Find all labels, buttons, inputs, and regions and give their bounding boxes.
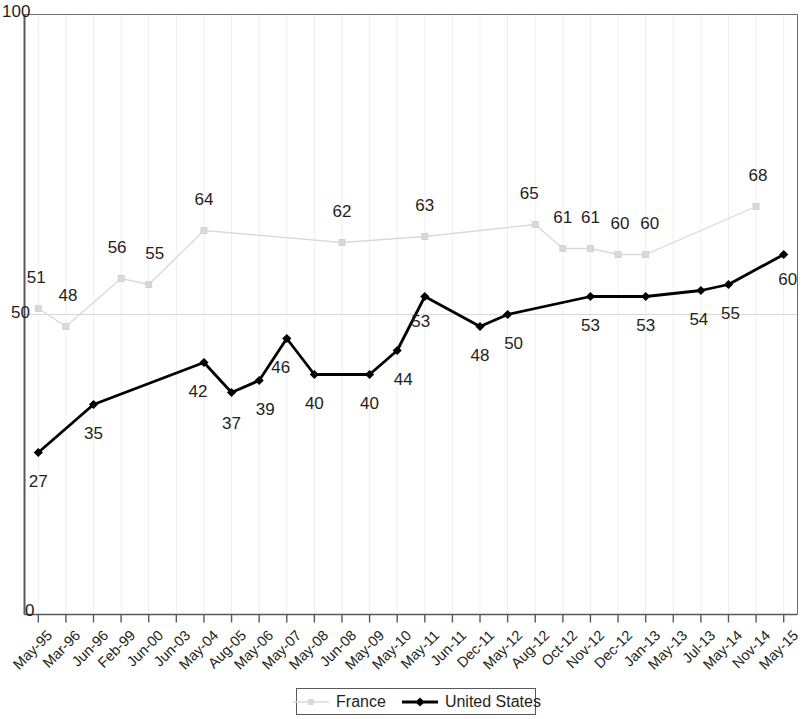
value-label: 27 <box>29 472 48 492</box>
value-label: 53 <box>411 312 430 332</box>
value-label: 63 <box>415 196 434 216</box>
value-label: 68 <box>749 166 768 186</box>
value-label: 46 <box>271 358 290 378</box>
y-axis-tick-100: 100 <box>2 2 30 22</box>
chart-plot-area <box>0 0 804 719</box>
value-label: 62 <box>333 202 352 222</box>
y-axis-tick-0: 0 <box>25 601 34 621</box>
value-label: 44 <box>394 370 413 390</box>
value-label: 37 <box>222 414 241 434</box>
legend-label: United States <box>445 693 541 711</box>
value-label: 61 <box>581 208 600 228</box>
y-axis-tick-50: 50 <box>11 303 30 323</box>
value-label: 55 <box>145 244 164 264</box>
value-label: 40 <box>360 394 379 414</box>
value-label: 42 <box>188 382 207 402</box>
value-label: 64 <box>194 190 213 210</box>
value-label: 60 <box>640 214 659 234</box>
chart-legend: FranceUnited States <box>296 688 536 715</box>
legend-marker-icon <box>400 695 440 709</box>
value-label: 60 <box>611 214 630 234</box>
value-label: 61 <box>553 208 572 228</box>
line-chart: 100 50 0 May-95Mar-96Jun-96Feb-99Jun-00J… <box>0 0 804 719</box>
value-label: 35 <box>84 424 103 444</box>
value-label: 51 <box>27 268 46 288</box>
value-label: 65 <box>520 184 539 204</box>
value-label: 39 <box>256 400 275 420</box>
value-label: 55 <box>721 304 740 324</box>
legend-marker-icon <box>291 695 331 709</box>
value-label: 48 <box>471 346 490 366</box>
value-label: 50 <box>504 334 523 354</box>
legend-label: France <box>336 693 386 711</box>
value-label: 56 <box>108 238 127 258</box>
value-label: 60 <box>778 270 797 290</box>
value-label: 54 <box>689 310 708 330</box>
legend-item-france: France <box>291 693 386 711</box>
value-label: 53 <box>581 316 600 336</box>
legend-item-united-states: United States <box>400 693 541 711</box>
value-label: 48 <box>58 286 77 306</box>
value-label: 53 <box>636 316 655 336</box>
value-label: 40 <box>305 394 324 414</box>
